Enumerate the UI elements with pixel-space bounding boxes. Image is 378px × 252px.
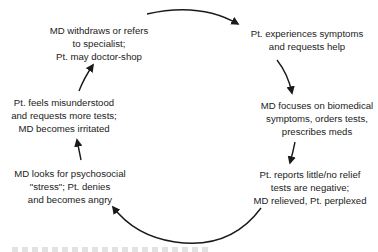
- node-line: MD withdraws or refers: [38, 24, 160, 37]
- node-pt-feels-misunderstood: Pt. feels misunderstood and requests mor…: [4, 96, 124, 135]
- node-line: to specialist;: [38, 37, 160, 50]
- node-md-focuses-biomedical: MD focuses on biomedical symptoms, order…: [256, 99, 378, 138]
- node-line: Pt. feels misunderstood: [4, 96, 124, 109]
- node-line: Pt. may doctor-shop: [38, 50, 160, 63]
- node-line: MD relieved, Pt. perplexed: [240, 194, 378, 207]
- node-md-looks-for-stress: MD looks for psychosocial "stress"; Pt. …: [10, 167, 130, 206]
- node-line: tests are negative;: [240, 181, 378, 194]
- node-line: MD looks for psychosocial: [10, 167, 130, 180]
- node-line: MD focuses on biomedical: [256, 99, 378, 112]
- arrow-n3-to-n4: [113, 207, 261, 243]
- arrow-n1-to-n2: [277, 60, 292, 93]
- node-line: and requests more tests;: [4, 109, 124, 122]
- node-md-withdraws: MD withdraws or refers to specialist; Pt…: [38, 24, 160, 63]
- arrow-n5-to-n6: [79, 65, 93, 91]
- node-line: symptoms, orders tests,: [256, 112, 378, 125]
- arrow-n4-to-n5: [77, 140, 81, 160]
- node-line: Pt. experiences symptoms: [242, 27, 372, 40]
- node-line: "stress"; Pt. denies: [10, 180, 130, 193]
- node-line: Pt. reports little/no relief: [240, 168, 378, 181]
- node-line: prescribes meds: [256, 125, 378, 138]
- node-pt-experiences-symptoms: Pt. experiences symptoms and requests he…: [242, 27, 372, 53]
- node-line: and becomes angry: [10, 193, 130, 206]
- node-line: MD becomes irritated: [4, 122, 124, 135]
- node-line: and requests help: [242, 40, 372, 53]
- cropped-caption: [12, 247, 212, 252]
- arrow-n2-to-n3: [290, 142, 295, 163]
- node-pt-reports-no-relief: Pt. reports little/no relief tests are n…: [240, 168, 378, 207]
- arrow-n6-to-n1: [147, 10, 238, 24]
